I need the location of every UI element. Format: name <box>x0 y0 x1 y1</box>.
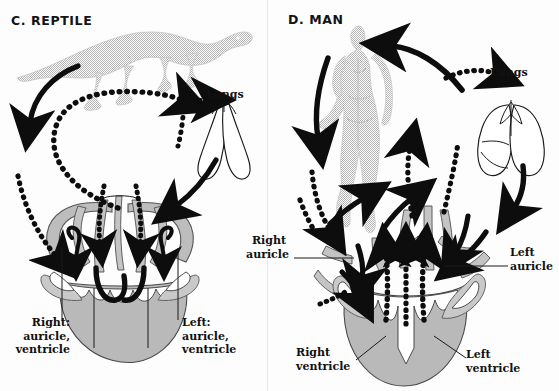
label-left-ventricle-man: Left ventricle <box>466 348 520 375</box>
label-right-auricle-man: Right auricle <box>246 234 286 261</box>
circulation-comparison-figure: C. REPTILE Lungs Right: auricle, ventric… <box>0 0 559 391</box>
lungs-label-man: Lungs <box>490 66 528 80</box>
panel-title-man: D. MAN <box>288 12 344 27</box>
label-right-ventricle-man: Right ventricle <box>296 346 350 373</box>
panel-man: D. MAN Lungs Right auricle Left auricle … <box>268 0 559 391</box>
panel-reptile: C. REPTILE Lungs Right: auricle, ventric… <box>0 0 268 391</box>
label-left-auricle-man: Left auricle <box>510 246 553 273</box>
lungs-label-reptile: Lungs <box>206 88 244 102</box>
panel-title-reptile: C. REPTILE <box>11 13 92 28</box>
label-right-chambers-reptile: Right: auricle, ventricle <box>0 316 70 357</box>
label-left-chambers-reptile: Left: auricle, ventricle <box>182 316 262 357</box>
